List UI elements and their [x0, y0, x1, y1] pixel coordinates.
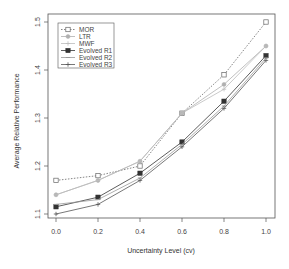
- y-tick-label: 1.3: [34, 113, 41, 123]
- y-tick-label: 1.1: [34, 209, 41, 219]
- x-tick-label: 0.2: [93, 228, 103, 235]
- data-point: [222, 99, 226, 103]
- x-tick-label: 1.0: [261, 228, 271, 235]
- legend-marker-icon: [66, 27, 70, 31]
- x-axis-label: Uncertainty Level (cv): [127, 247, 195, 255]
- y-tick-label: 1.4: [34, 65, 41, 75]
- y-axis: 1.11.21.31.41.5: [34, 17, 48, 219]
- data-point: [138, 171, 142, 175]
- y-tick-label: 1.2: [34, 161, 41, 171]
- legend-label: Evolved R2: [79, 54, 113, 61]
- series-evolved-r2: [54, 58, 268, 204]
- x-tick-label: 0.4: [135, 228, 145, 235]
- data-point: [96, 202, 100, 206]
- legend: MORLTRMWFEvolved R1Evolved R2Evolved R3: [58, 23, 114, 68]
- data-point: [264, 20, 268, 24]
- data-point: [54, 205, 58, 209]
- data-point: [222, 82, 226, 86]
- data-point: [264, 53, 268, 57]
- x-tick-label: 0.0: [51, 228, 61, 235]
- legend-label: Evolved R1: [79, 47, 113, 54]
- line-chart: 1.11.21.31.41.5 0.00.20.40.60.81.0 Uncer…: [0, 0, 289, 269]
- legend-marker-icon: [66, 48, 70, 52]
- data-point: [96, 173, 100, 177]
- y-axis-label: Average Relative Performance: [13, 73, 21, 168]
- data-point: [222, 73, 226, 77]
- data-point: [54, 212, 58, 216]
- legend-marker-icon: [66, 35, 70, 39]
- x-tick-label: 0.8: [219, 228, 229, 235]
- y-tick-label: 1.5: [34, 17, 41, 27]
- legend-label: MOR: [79, 26, 94, 33]
- legend-label: MWF: [79, 40, 95, 47]
- data-point: [54, 178, 58, 182]
- legend-label: LTR: [79, 33, 91, 40]
- x-axis: 0.00.20.40.60.81.0: [51, 218, 271, 235]
- legend-label: Evolved R3: [79, 61, 113, 68]
- data-point: [180, 140, 184, 144]
- x-tick-label: 0.6: [177, 228, 187, 235]
- data-point: [138, 164, 142, 168]
